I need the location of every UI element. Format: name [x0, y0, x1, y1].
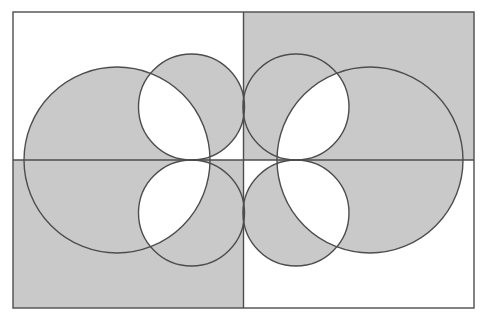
figure-page: Overlapping circles XOR shading diagram [0, 0, 490, 321]
geometric-figure: Overlapping circles XOR shading diagram [0, 0, 490, 321]
